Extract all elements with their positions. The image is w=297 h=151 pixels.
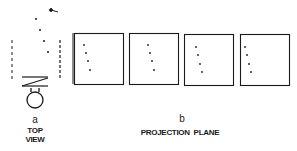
projected-dot	[244, 46, 246, 48]
projected-dot	[151, 60, 153, 62]
frame-1	[75, 34, 124, 85]
projected-dot	[149, 52, 151, 54]
projected-dot	[250, 71, 252, 73]
panel-a-letter: a	[27, 114, 43, 125]
top-view-caption-line1: TOP	[17, 126, 53, 135]
observer-eye-icon	[27, 88, 43, 108]
projected-dot	[85, 52, 87, 54]
projected-dot	[89, 69, 91, 71]
top-view-panel	[12, 9, 73, 108]
projected-dot	[197, 54, 199, 56]
top-view-caption-line2: VIEW	[17, 135, 53, 144]
projected-dot	[83, 44, 85, 46]
trajectory-dots	[35, 18, 49, 53]
frame-3	[185, 35, 234, 86]
projected-dot	[153, 69, 155, 71]
frame-2	[130, 34, 179, 85]
projected-dot	[246, 54, 248, 56]
motion-arrow-icon	[50, 9, 58, 12]
shutter-icon	[22, 77, 48, 86]
projected-dot	[201, 71, 203, 73]
projected-dot	[248, 63, 250, 65]
frame-dots	[83, 44, 252, 73]
projected-dot	[87, 60, 89, 62]
projection-plane-panel	[75, 34, 290, 86]
projected-dot	[147, 44, 149, 46]
projected-dot	[199, 63, 201, 65]
projected-dot	[195, 46, 197, 48]
frame-4	[241, 35, 290, 86]
panel-b-letter: b	[174, 113, 190, 124]
projection-plane-caption: PROJECTION PLANE	[130, 128, 230, 137]
